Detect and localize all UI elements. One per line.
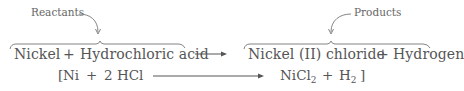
word-equation-arrow: [221, 52, 227, 57]
word-equation-reactant-2: Hydrochloric acid: [80, 46, 209, 62]
products-pointer-arrow: [331, 14, 351, 32]
formula-reactant-1: Ni: [63, 67, 79, 83]
word-equation-product-2: Hydrogen: [393, 46, 464, 62]
formula-product-1-subscript: 2: [311, 75, 317, 85]
word-equation-product-1: Nickel (II) chloride: [248, 46, 385, 62]
formula-plus-2: +: [322, 67, 333, 83]
formula-product-1-base: NiCl: [280, 67, 311, 83]
word-equation-plus-1: +: [63, 46, 75, 62]
word-equation-reactant-1: Nickel: [14, 46, 60, 62]
formula-product-2-subscript: 2: [351, 75, 357, 85]
formula-reactant-2: 2 HCl: [104, 67, 143, 83]
formula-equation-arrow: [258, 74, 264, 79]
formula-product-2-base: H: [339, 67, 351, 83]
formula-product-1: NiCl2: [280, 67, 317, 83]
formula-close-bracket: ]: [360, 67, 365, 83]
formula-product-2: H2: [339, 67, 357, 83]
word-equation-plus-2: +: [377, 46, 389, 62]
formula-plus-1: +: [86, 67, 97, 83]
